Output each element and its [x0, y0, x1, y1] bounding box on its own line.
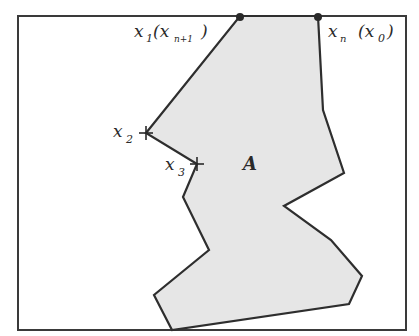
- label-x2-base: x: [113, 121, 123, 141]
- label-xn: x n (x 0 ): [328, 21, 394, 45]
- label-x3-base: x: [165, 154, 175, 174]
- label-xn-alt: (x: [358, 21, 375, 41]
- vertex-xn-dot-icon: [314, 13, 322, 21]
- label-x1-base: x: [134, 21, 144, 41]
- label-xn-alt-sub: 0: [378, 32, 385, 45]
- label-x2-sub: 2: [125, 133, 133, 146]
- label-xn-sub: n: [340, 33, 346, 44]
- label-x1-alt: (x: [153, 21, 170, 41]
- label-x1: x 1 (x n+1 ): [134, 21, 208, 45]
- label-x3: x 3: [165, 154, 185, 179]
- label-xn-alt-close: ): [386, 21, 394, 41]
- label-x1-alt-close: ): [200, 21, 208, 41]
- label-x1-alt-sub: n+1: [174, 34, 193, 44]
- polygon-diagram: x 1 (x n+1 ) x n (x 0 ) x 2 x 3 A: [0, 0, 419, 336]
- label-x3-sub: 3: [178, 166, 185, 179]
- label-x1-sub: 1: [146, 32, 153, 45]
- label-xn-base: x: [328, 21, 338, 41]
- region-label-a: A: [241, 153, 257, 174]
- vertex-x1-dot-icon: [236, 13, 244, 21]
- label-x2: x 2: [113, 121, 133, 146]
